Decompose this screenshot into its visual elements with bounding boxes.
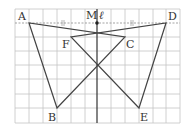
geometry-diagram: A D M ℓ F C B E [0, 0, 191, 131]
label-c: C [126, 38, 134, 51]
label-b: B [48, 111, 56, 124]
label-l: ℓ [99, 9, 104, 22]
label-e: E [140, 111, 148, 124]
label-m: M [86, 9, 97, 22]
label-a: A [17, 10, 27, 23]
label-d: D [168, 10, 177, 23]
label-f: F [62, 38, 70, 51]
